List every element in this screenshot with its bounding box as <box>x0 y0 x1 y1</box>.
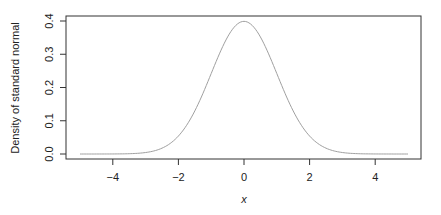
x-tick-label: 4 <box>372 171 378 183</box>
x-axis-title: x <box>240 193 247 205</box>
x-tick-label: −2 <box>172 171 185 183</box>
y-axis-title: Density of standard normal <box>9 22 21 153</box>
density-curve <box>80 21 408 154</box>
x-tick-label: −4 <box>107 171 120 183</box>
y-tick-label: 0.3 <box>43 47 55 62</box>
plot-box <box>66 16 421 159</box>
density-chart: 0.00.10.20.30.4 −4−2024 x Density of sta… <box>0 0 441 215</box>
x-tick-label: 2 <box>307 171 313 183</box>
y-axis: 0.00.10.20.30.4 <box>43 13 66 161</box>
y-tick-label: 0.0 <box>43 146 55 161</box>
y-tick-label: 0.4 <box>43 13 55 28</box>
x-tick-label: 0 <box>241 171 247 183</box>
y-tick-label: 0.1 <box>43 113 55 128</box>
x-axis: −4−2024 <box>107 159 379 183</box>
chart-canvas: 0.00.10.20.30.4 −4−2024 x Density of sta… <box>0 0 441 215</box>
y-tick-label: 0.2 <box>43 80 55 95</box>
